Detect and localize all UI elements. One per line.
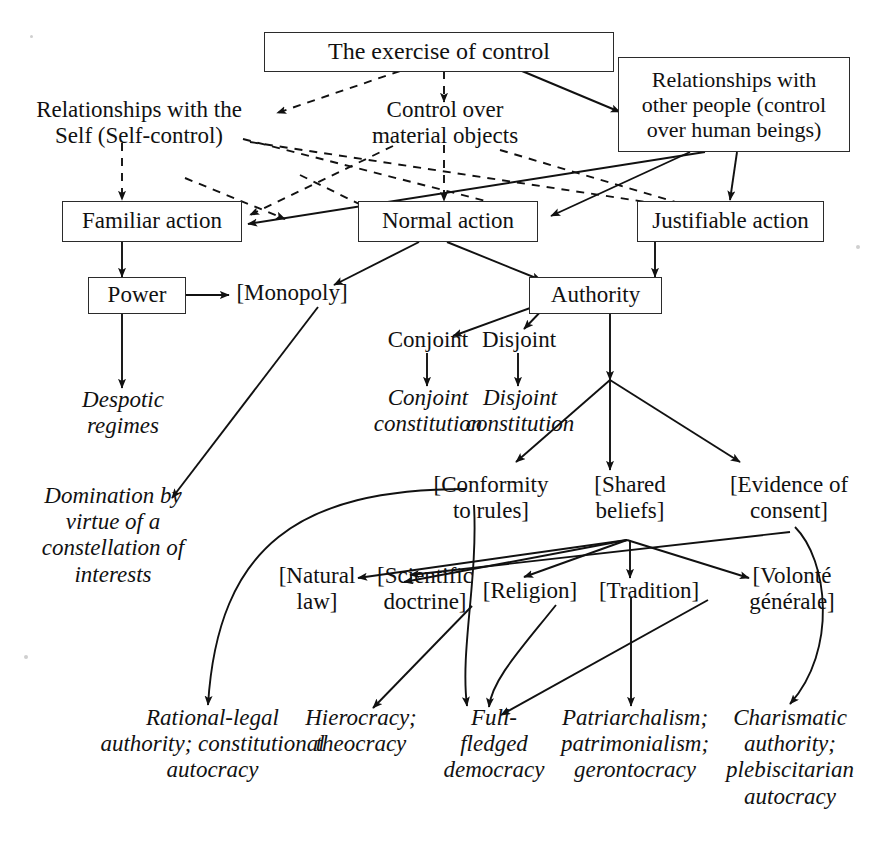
node-volonte-generale[interactable]: [Volonté générale] — [728, 563, 856, 615]
edge-scientific-to-hierocracy — [373, 606, 472, 708]
label-power: Power — [108, 282, 167, 308]
label-authority: Authority — [551, 282, 640, 308]
label-patriarchalism-line1: Patriarchalism; — [545, 705, 725, 731]
label-full-line3: democracy — [432, 757, 556, 783]
label-hierocracy-line2: theocracy — [286, 731, 436, 757]
label-normal-action: Normal action — [382, 208, 514, 234]
edge-shared-to-religion — [524, 540, 627, 577]
label-conformity-line1: [Conformity — [416, 472, 566, 498]
label-evidence-line2: consent] — [712, 498, 866, 524]
label-conformity-line2: to rules] — [416, 498, 566, 524]
label-hierocracy-line1: Hierocracy; — [286, 705, 436, 731]
node-patriarchalism[interactable]: Patriarchalism; patrimonialism; gerontoc… — [545, 705, 725, 784]
label-evidence-line1: [Evidence of — [712, 472, 866, 498]
label-full-line1: Full- — [432, 705, 556, 731]
label-patriarchalism-line2: patrimonialism; — [545, 731, 725, 757]
label-domination-line3: constellation of — [22, 535, 204, 561]
edge-other-to-justifiable — [730, 152, 737, 200]
label-disjoint: Disjoint — [482, 327, 556, 352]
label-relationships-other-line2: other people (control — [642, 92, 827, 117]
label-charismatic-line1: Charismatic — [711, 705, 869, 731]
label-relationships-other-line1: Relationships with — [652, 67, 816, 92]
node-conformity-to-rules[interactable]: [Conformity to rules] — [416, 472, 566, 524]
label-natural-line1: [Natural — [262, 563, 372, 589]
label-domination-line1: Domination by — [22, 483, 204, 509]
node-hierocracy-theocracy[interactable]: Hierocracy; theocracy — [286, 705, 436, 757]
node-charismatic-authority[interactable]: Charismatic authority; plebiscitarian au… — [711, 705, 869, 810]
node-justifiable-action[interactable]: Justifiable action — [637, 201, 824, 242]
label-monopoly: [Monopoly] — [236, 280, 347, 305]
label-disjoint-constitution-line1: Disjoint — [452, 385, 588, 411]
label-religion: [Religion] — [483, 578, 578, 603]
label-volonte-line1: [Volonté — [728, 563, 856, 589]
edge-normal-to-monopoly — [334, 242, 419, 285]
label-relationships-self-line2: Self (Self-control) — [14, 123, 264, 149]
node-familiar-action[interactable]: Familiar action — [62, 201, 242, 242]
label-scientific-line2: doctrine] — [360, 589, 490, 615]
node-authority[interactable]: Authority — [529, 277, 662, 314]
node-disjoint-constitution[interactable]: Disjoint constitution — [452, 385, 588, 437]
label-full-line2: fledged — [432, 731, 556, 757]
label-exercise-of-control: The exercise of control — [328, 38, 550, 65]
edge-normal-to-authority — [447, 242, 541, 280]
label-control-material-line1: Control over — [350, 97, 540, 123]
label-relationships-other-line3: over human beings) — [647, 117, 822, 142]
node-despotic-regimes[interactable]: Despotic regimes — [58, 387, 188, 439]
edge-monopoly-to-domination — [172, 307, 318, 498]
scan-speck-1 — [30, 35, 33, 38]
node-religion[interactable]: [Religion] — [473, 578, 587, 604]
node-power[interactable]: Power — [88, 277, 186, 314]
label-familiar-action: Familiar action — [82, 208, 222, 234]
node-control-over-material-objects[interactable]: Control over material objects — [350, 97, 540, 149]
label-rational-line3: autocracy — [95, 757, 330, 783]
node-disjoint[interactable]: Disjoint — [466, 327, 572, 353]
label-domination-line2: virtue of a — [22, 509, 204, 535]
label-scientific-line1: [Scientific — [360, 563, 490, 589]
label-tradition: [Tradition] — [599, 578, 699, 603]
node-normal-action[interactable]: Normal action — [358, 201, 538, 242]
label-charismatic-line2: authority; — [711, 731, 869, 757]
node-tradition[interactable]: [Tradition] — [587, 578, 711, 604]
node-natural-law[interactable]: [Natural law] — [262, 563, 372, 615]
node-monopoly[interactable]: [Monopoly] — [232, 280, 352, 306]
label-patriarchalism-line3: gerontocracy — [545, 757, 725, 783]
edge-authority-to-evidence — [610, 380, 740, 462]
label-despotic-line2: regimes — [58, 413, 188, 439]
node-shared-beliefs[interactable]: [Shared beliefs] — [572, 472, 688, 524]
edge-religion-to-full — [489, 605, 556, 707]
scan-speck-3 — [856, 245, 860, 249]
label-shared-line1: [Shared — [572, 472, 688, 498]
label-control-material-line2: material objects — [350, 123, 540, 149]
label-charismatic-line3: plebiscitarian — [711, 757, 869, 783]
node-domination-constellation-interests[interactable]: Domination by virtue of a constellation … — [22, 483, 204, 588]
label-justifiable-action: Justifiable action — [652, 208, 809, 234]
label-shared-line2: beliefs] — [572, 498, 688, 524]
edge-evidence-to-charismatic — [790, 527, 823, 704]
node-evidence-of-consent[interactable]: [Evidence of consent] — [712, 472, 866, 524]
label-domination-line4: interests — [22, 562, 204, 588]
node-exercise-of-control[interactable]: The exercise of control — [264, 32, 614, 72]
scan-speck-2 — [24, 655, 28, 659]
node-relationships-other-people[interactable]: Relationships with other people (control… — [618, 57, 850, 152]
label-disjoint-constitution-line2: constitution — [452, 411, 588, 437]
edge-volonte-to-full — [501, 600, 708, 715]
node-relationships-self[interactable]: Relationships with the Self (Self-contro… — [14, 97, 264, 149]
label-relationships-self-line1: Relationships with the — [14, 97, 264, 123]
label-despotic-line1: Despotic — [58, 387, 188, 413]
node-full-fledged-democracy[interactable]: Full- fledged democracy — [432, 705, 556, 784]
label-conjoint: Conjoint — [388, 327, 469, 352]
label-volonte-line2: générale] — [728, 589, 856, 615]
label-natural-line2: law] — [262, 589, 372, 615]
node-scientific-doctrine[interactable]: [Scientific doctrine] — [360, 563, 490, 615]
diagram-canvas: The exercise of control Relationships wi… — [0, 0, 878, 851]
label-charismatic-line4: autocracy — [711, 784, 869, 810]
